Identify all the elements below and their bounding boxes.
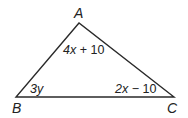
angle-label-a: 4x + 10 [63,43,104,57]
angle-b-variable: 3y [30,82,44,96]
vertex-label-a: A [73,5,83,21]
angle-c-constant: − 10 [128,82,156,96]
vertex-label-c: C [167,100,178,116]
angle-c-variable: 2x [114,82,129,96]
angle-a-variable: 4x [63,43,77,57]
triangle-diagram: A B C 4x + 10 3y 2x − 10 [0,0,188,118]
angle-label-c: 2x − 10 [114,82,156,96]
vertex-label-b: B [12,100,21,116]
angle-label-b: 3y [30,82,44,96]
angle-a-constant: + 10 [76,43,104,57]
